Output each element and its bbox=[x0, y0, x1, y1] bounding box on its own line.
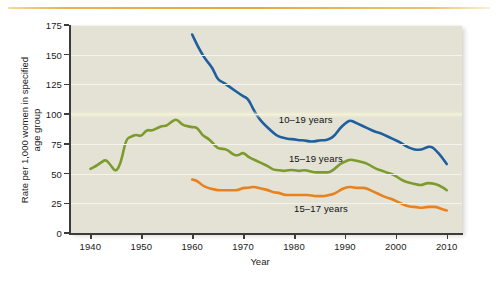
x-tick-label-1950: 1950 bbox=[130, 241, 152, 252]
y-axis-title: Rate per 1,000 women in specified age gr… bbox=[19, 55, 43, 205]
series-lines bbox=[70, 25, 462, 233]
x-tick-label-1940: 1940 bbox=[80, 241, 102, 252]
plot-area: 10–19 years15–19 years15–17 years bbox=[70, 25, 462, 233]
x-tick-label-1970: 1970 bbox=[232, 241, 254, 252]
series-label-1: 15–19 years bbox=[289, 153, 343, 164]
x-tick-label-1980: 1980 bbox=[283, 241, 305, 252]
y-tick-label-25: 25 bbox=[51, 198, 62, 209]
x-axis-title-text: Year bbox=[228, 256, 269, 267]
x-tick-1970 bbox=[243, 234, 245, 239]
x-tick-1940 bbox=[90, 234, 92, 239]
series-line-1 bbox=[90, 120, 446, 190]
y-tick-50 bbox=[64, 173, 69, 175]
series-label-0: 10–19 years bbox=[279, 114, 333, 125]
y-tick-125 bbox=[64, 84, 69, 86]
x-tick-2010 bbox=[447, 234, 449, 239]
series-label-2: 15–17 years bbox=[294, 203, 348, 214]
y-tick-175 bbox=[64, 24, 69, 26]
y-tick-label-150: 150 bbox=[46, 49, 62, 60]
chart-figure: 10–19 years15–19 years15–17 years 025507… bbox=[0, 0, 498, 285]
gridline-125 bbox=[70, 84, 462, 85]
y-tick-150 bbox=[64, 54, 69, 56]
x-tick-label-1960: 1960 bbox=[181, 241, 203, 252]
x-tick-label-2010: 2010 bbox=[436, 241, 458, 252]
y-tick-0 bbox=[64, 232, 69, 234]
x-axis-title: Year bbox=[0, 256, 498, 267]
y-tick-label-175: 175 bbox=[46, 20, 62, 31]
y-tick-label-125: 125 bbox=[46, 79, 62, 90]
x-tick-1980 bbox=[294, 234, 296, 239]
y-tick-100 bbox=[64, 113, 69, 115]
y-tick-75 bbox=[64, 143, 69, 145]
y-tick-label-0: 0 bbox=[57, 228, 62, 239]
x-tick-2000 bbox=[396, 234, 398, 239]
y-axis-line bbox=[69, 25, 71, 234]
x-axis-line bbox=[69, 233, 463, 235]
x-tick-1990 bbox=[345, 234, 347, 239]
gridline-75 bbox=[70, 144, 462, 145]
y-tick-label-75: 75 bbox=[51, 138, 62, 149]
x-tick-1960 bbox=[192, 234, 194, 239]
gridline-100 bbox=[70, 114, 462, 115]
gridline-50 bbox=[70, 174, 462, 175]
gridline-25 bbox=[70, 203, 462, 204]
gridline-150 bbox=[70, 55, 462, 56]
gridline-175 bbox=[70, 25, 462, 26]
y-tick-label-100: 100 bbox=[46, 109, 62, 120]
x-tick-1950 bbox=[141, 234, 143, 239]
x-tick-label-1990: 1990 bbox=[334, 241, 356, 252]
x-tick-label-2000: 2000 bbox=[385, 241, 407, 252]
y-tick-label-50: 50 bbox=[51, 168, 62, 179]
y-tick-25 bbox=[64, 203, 69, 205]
top-decorative-rule bbox=[8, 7, 490, 9]
